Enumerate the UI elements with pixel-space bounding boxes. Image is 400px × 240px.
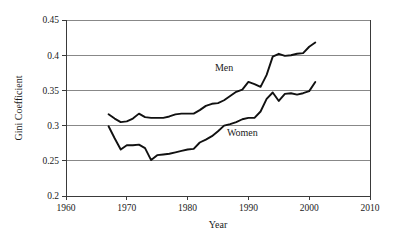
y-tick-label: 0.3 [47,121,59,131]
series-line-men [109,43,316,123]
tick-marks-group [62,20,370,200]
x-tick-label: 2000 [300,203,319,213]
x-tick-labels-group: 196019701980199020002010 [57,203,380,213]
x-tick-label: 1980 [178,203,197,213]
x-axis-title: Year [209,219,228,230]
series-line-women [109,82,316,160]
y-tick-label: 0.4 [47,51,59,61]
series-lines-group [109,43,316,161]
x-tick-label: 1960 [57,203,76,213]
series-label-women: Women [227,127,258,138]
gridlines-group [66,20,370,196]
axes-group [66,20,370,196]
x-tick-label: 1990 [239,203,258,213]
y-tick-labels-group: 0.20.250.30.350.40.45 [42,15,59,201]
series-label-men: Men [215,62,233,73]
y-axis-title: Gini Coefficient [13,75,24,140]
x-tick-label: 1970 [117,203,136,213]
y-tick-label: 0.35 [42,86,59,96]
y-tick-label: 0.2 [47,191,59,201]
series-labels-group: MenWomen [215,62,258,138]
y-tick-label: 0.45 [42,15,59,25]
gini-coefficient-chart: 0.20.250.30.350.40.45 196019701980199020… [0,0,400,240]
x-tick-label: 2010 [361,203,380,213]
y-tick-label: 0.25 [42,156,59,166]
chart-canvas: 0.20.250.30.350.40.45 196019701980199020… [0,0,400,240]
